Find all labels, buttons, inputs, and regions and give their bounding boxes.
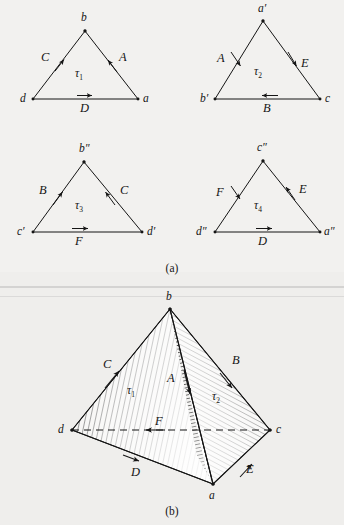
tau4-edge-bottom-label: D (258, 235, 267, 248)
tau3-right-edge (84, 162, 142, 232)
caption-panel-b: (b) (0, 505, 344, 517)
tau2-edge-right-label: E (301, 57, 309, 70)
tetra-vertex-d-label: d (58, 424, 64, 436)
tau4-face-subscript: 4 (258, 205, 262, 214)
tetra-tau1-subscript: 1 (131, 390, 135, 399)
panel-b (72, 309, 270, 484)
tetra-edge-F-label: F (155, 415, 163, 428)
tetra-face-tau1-label: τ1 (127, 385, 135, 399)
tau1-vertex-bottom-left-label: d (20, 93, 26, 105)
tau1-face-label: τ1 (75, 68, 83, 82)
tau4-right-edge (263, 161, 320, 232)
tetra-edge-C-label: C (103, 358, 111, 371)
tau3-vertex-bottom-right-label: d′ (147, 226, 155, 238)
tetra-face-tau2-label: τ2 (212, 391, 220, 405)
tau1-left-edge (33, 31, 85, 99)
tau3-left-arrow (53, 192, 63, 205)
tau3-face-label: τ3 (75, 200, 83, 214)
tau1-vertex-bottom-right-label: a (143, 93, 149, 105)
tau1-vertex-apex-label: b (81, 12, 87, 24)
tau1-face-subscript: 1 (79, 73, 83, 82)
tau3-vertex-apex-label: b″ (79, 143, 90, 155)
tau4-vertex-apex-label: c″ (257, 142, 267, 154)
tau1-right-arrow (108, 60, 117, 72)
tau4-edge-right-label: E (299, 183, 307, 196)
caption-panel-a: (a) (0, 262, 344, 274)
tau4-vertex-bottom-left-label: d″ (196, 226, 207, 238)
triangle-tau3 (33, 162, 142, 232)
tau2-face-label: τ2 (254, 66, 262, 80)
tau2-right-arrow (288, 52, 297, 66)
tau3-vertex-bottom-left-label: c′ (17, 226, 25, 238)
tau3-edge-right-label: C (120, 184, 128, 197)
tau2-right-edge (263, 21, 320, 99)
tetra-vertex-b-label: b (166, 291, 172, 303)
tetra-edge-D-label: D (131, 466, 140, 479)
triangle-tau1 (33, 31, 138, 99)
tau4-left-arrow (231, 186, 240, 199)
tetra-edge-E-label: E (246, 463, 254, 476)
tau1-left-arrow (55, 60, 64, 72)
tau2-vertex-apex-label: a′ (258, 3, 266, 15)
tau2-vertex-bottom-left-label: b′ (200, 93, 208, 105)
triangle-tau4 (215, 161, 320, 232)
tau3-face-subscript: 3 (79, 205, 83, 214)
tau2-face-subscript: 2 (258, 71, 262, 80)
tau2-edge-left-label: A (217, 52, 225, 65)
tau2-edge-bottom-label: B (263, 102, 271, 115)
tau1-edge-right-label: A (119, 51, 127, 64)
tau3-edge-left-label: B (39, 184, 47, 197)
tetra-tau2-subscript: 2 (216, 396, 220, 405)
tau2-vertex-bottom-right-label: c (325, 93, 330, 105)
tau4-edge-left-label: F (216, 186, 224, 199)
edge-d-a-arrow (123, 455, 139, 461)
tau1-edge-bottom-label: D (80, 102, 89, 115)
tau3-edge-bottom-label: F (75, 235, 83, 248)
tetra-edge-A-label: A (167, 372, 175, 385)
tetra-edge-B-label: B (232, 354, 240, 367)
tau1-edge-left-label: C (41, 51, 49, 64)
tetra-vertex-c-label: c (276, 424, 281, 436)
tau4-vertex-bottom-right-label: a″ (324, 226, 335, 238)
tetra-vertex-a-label: a (209, 490, 215, 502)
tau4-right-arrow (286, 187, 295, 200)
tau4-face-label: τ4 (254, 200, 262, 214)
